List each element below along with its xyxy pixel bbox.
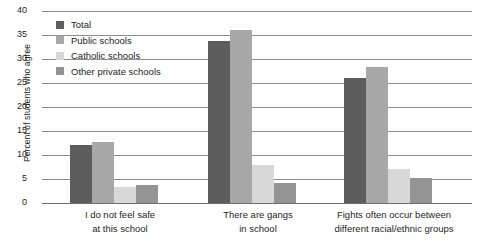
y-axis-tick-label: 10 xyxy=(1,150,27,159)
y-axis-tick-label: 40 xyxy=(1,6,27,15)
x-axis-labels: I do not feel safeat this schoolThere ar… xyxy=(42,208,480,244)
bar xyxy=(388,169,410,203)
chart-legend: TotalPublic schoolsCatholic schoolsOther… xyxy=(56,17,161,79)
y-axis-tick-label: 15 xyxy=(1,126,27,135)
legend-swatch-icon xyxy=(56,52,64,60)
y-axis-tick-label: 20 xyxy=(1,102,27,111)
legend-item: Other private schools xyxy=(56,64,161,80)
legend-swatch-icon xyxy=(56,67,64,75)
x-axis-label-line: different racial/ethnic groups xyxy=(299,222,480,236)
bar xyxy=(410,178,432,203)
x-axis-label-line: at this school xyxy=(45,222,195,236)
axis-line-zero xyxy=(42,203,472,204)
y-axis-tick-label: 35 xyxy=(1,30,27,39)
bar-group xyxy=(344,11,432,203)
legend-swatch-icon xyxy=(56,21,64,29)
legend-item: Total xyxy=(56,17,161,33)
y-axis-tick-label: 25 xyxy=(1,78,27,87)
x-axis-category-label: I do not feel safeat this school xyxy=(45,208,195,235)
legend-item: Catholic schools xyxy=(56,48,161,64)
bar xyxy=(208,41,230,203)
legend-item-label: Other private schools xyxy=(71,67,161,77)
legend-item: Public schools xyxy=(56,33,161,49)
bar xyxy=(344,78,366,203)
x-axis-category-label: Fights often occur betweendifferent raci… xyxy=(299,208,480,235)
y-axis-tick-label: 5 xyxy=(1,174,27,183)
bar-chart: Percent of students who agree 4035302520… xyxy=(0,0,480,244)
x-axis-label-line: I do not feel safe xyxy=(45,208,195,222)
x-axis-label-line: Fights often occur between xyxy=(299,208,480,222)
bar xyxy=(252,165,274,203)
y-axis-tick-label: 30 xyxy=(1,54,27,63)
bar xyxy=(92,142,114,203)
bar xyxy=(230,30,252,203)
legend-item-label: Total xyxy=(71,20,91,30)
bar xyxy=(274,183,296,203)
bar xyxy=(136,185,158,203)
bar-group xyxy=(208,11,296,203)
bar xyxy=(366,67,388,203)
bar xyxy=(114,187,136,203)
y-axis-tick-label: 0 xyxy=(1,198,27,207)
bar xyxy=(70,145,92,203)
legend-item-label: Catholic schools xyxy=(71,51,140,61)
legend-item-label: Public schools xyxy=(71,36,132,46)
legend-swatch-icon xyxy=(56,36,64,44)
